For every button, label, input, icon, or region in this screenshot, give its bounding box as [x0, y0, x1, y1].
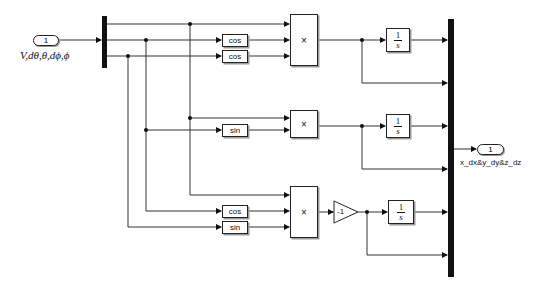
outport-block[interactable]: 1 [477, 144, 504, 155]
outport-label: x_dx&y_dy&z_dz [460, 158, 521, 167]
cos-block-3[interactable]: cos [222, 205, 248, 218]
product-block-1[interactable]: × [290, 14, 318, 66]
product-block-2[interactable]: × [290, 110, 318, 138]
integrator-block-2[interactable]: 1 s [386, 114, 410, 138]
product-block-3[interactable]: × [290, 186, 318, 238]
integrator-block-3[interactable]: 1 s [388, 200, 414, 224]
sin-block-1[interactable]: sin [222, 124, 248, 137]
cos-block-1[interactable]: cos [222, 34, 248, 47]
integrator-block-1[interactable]: 1 s [386, 28, 410, 52]
inport-block[interactable]: 1 [33, 35, 59, 46]
integrator-denominator: s [396, 127, 400, 136]
cos-block-2[interactable]: cos [222, 50, 248, 63]
inport-label: V,dθ,θ,dϕ,ϕ [20, 49, 70, 61]
demux-block[interactable] [102, 16, 107, 68]
integrator-denominator: s [396, 41, 400, 50]
gain-block[interactable]: -1 [337, 207, 344, 216]
integrator-numerator: 1 [394, 31, 403, 41]
integrator-numerator: 1 [397, 203, 406, 213]
mux-block[interactable] [448, 19, 454, 277]
sin-block-2[interactable]: sin [222, 221, 248, 234]
integrator-denominator: s [399, 213, 403, 222]
integrator-numerator: 1 [394, 117, 403, 127]
